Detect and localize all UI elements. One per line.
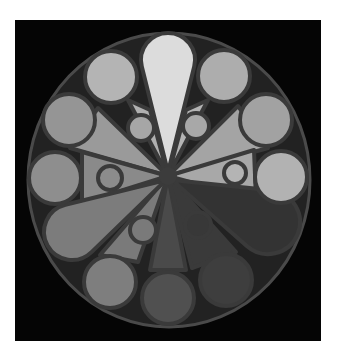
lobe-upper-left: [128, 115, 154, 141]
lobe-right: [224, 162, 246, 184]
circle-top-left: [85, 51, 137, 103]
circle-left-middle: [29, 152, 81, 204]
center-hub: [159, 167, 177, 185]
circle-bottom: [142, 272, 194, 324]
circle-left-upper: [43, 94, 95, 146]
lobe-lower-left: [130, 217, 156, 243]
circle-bottom-right: [200, 254, 252, 306]
rosette-diagram: [0, 0, 340, 358]
lobe-upper-right: [183, 113, 209, 139]
lobe-lower-right: [185, 212, 211, 238]
circle-right-middle: [255, 151, 307, 203]
circle-bottom-left: [84, 256, 136, 308]
lobe-left: [98, 166, 122, 190]
circle-right-upper: [240, 94, 292, 146]
circle-top-right: [198, 50, 250, 102]
